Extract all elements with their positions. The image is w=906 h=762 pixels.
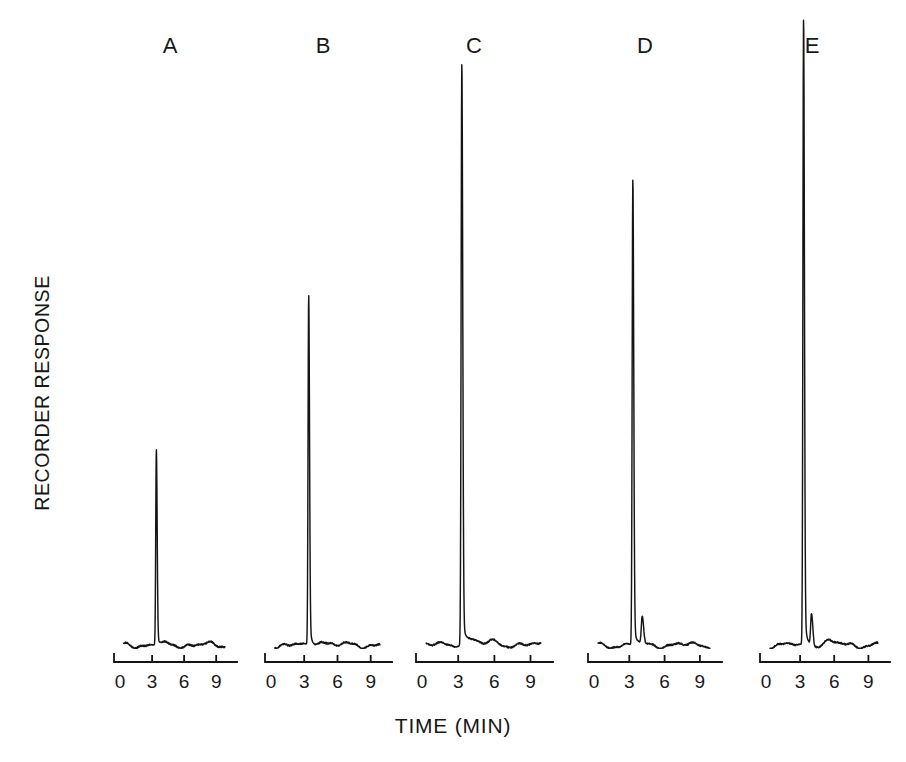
- tick-label-d-6: 6: [654, 671, 676, 693]
- tick-label-d-3: 3: [618, 671, 640, 693]
- tick-label-a-0: 0: [109, 671, 131, 693]
- tick-label-b-0: 0: [260, 671, 282, 693]
- chromatogram-traces: [0, 0, 906, 762]
- tick-label-c-0: 0: [411, 671, 433, 693]
- tick-label-d-0: 0: [583, 671, 605, 693]
- panel-label-e: E: [797, 33, 827, 59]
- panel-label-c: C: [459, 33, 489, 59]
- tick-label-c-9: 9: [520, 671, 542, 693]
- chromatogram-trace-e: [770, 20, 878, 648]
- time-axis-line-c: [416, 654, 553, 662]
- tick-label-b-9: 9: [360, 671, 382, 693]
- time-axis-line-e: [760, 654, 890, 662]
- tick-label-e-6: 6: [823, 671, 845, 693]
- chromatogram-figure: RECORDER RESPONSE ABCDE 0369036903690369…: [0, 0, 906, 762]
- chromatogram-trace-a: [124, 450, 225, 649]
- tick-label-a-6: 6: [173, 671, 195, 693]
- tick-label-c-6: 6: [483, 671, 505, 693]
- tick-label-b-6: 6: [326, 671, 348, 693]
- tick-label-b-3: 3: [293, 671, 315, 693]
- panel-label-a: A: [155, 33, 185, 59]
- tick-label-d-9: 9: [689, 671, 711, 693]
- time-axis-line-b: [265, 654, 392, 662]
- panel-label-d: D: [630, 33, 660, 59]
- time-axis-line-a: [114, 654, 237, 662]
- time-axis-line-d: [588, 654, 722, 662]
- chromatogram-trace-b: [275, 296, 380, 648]
- tick-label-e-9: 9: [857, 671, 879, 693]
- chromatogram-trace-c: [426, 65, 541, 648]
- tick-label-c-3: 3: [447, 671, 469, 693]
- x-axis-title: TIME (MIN): [0, 714, 906, 738]
- tick-label-e-3: 3: [789, 671, 811, 693]
- tick-label-e-0: 0: [755, 671, 777, 693]
- tick-label-a-9: 9: [205, 671, 227, 693]
- panel-label-b: B: [308, 33, 338, 59]
- chromatogram-trace-d: [598, 180, 710, 648]
- tick-label-a-3: 3: [141, 671, 163, 693]
